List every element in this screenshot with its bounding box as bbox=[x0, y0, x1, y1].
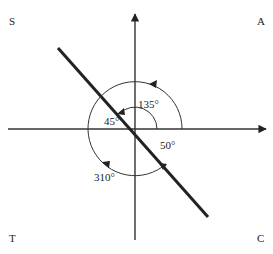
terminal-line bbox=[58, 48, 208, 217]
outer-arc-arrow-top-icon bbox=[149, 80, 157, 88]
angle-label-45: 45° bbox=[104, 115, 119, 127]
quadrant-label-s: S bbox=[9, 15, 15, 27]
quadrant-label-a: A bbox=[257, 15, 265, 27]
inner-arc-arrow-icon bbox=[117, 108, 125, 115]
angle-label-135: 135° bbox=[138, 98, 159, 110]
angle-diagram: S A T C 135° 45° 50° 310° bbox=[0, 0, 273, 254]
quadrant-label-c: C bbox=[257, 232, 264, 244]
outer-arc-arrow-left-icon bbox=[102, 161, 110, 168]
angle-label-50: 50° bbox=[160, 139, 175, 151]
quadrant-label-t: T bbox=[9, 232, 16, 244]
angle-label-310: 310° bbox=[94, 171, 115, 183]
